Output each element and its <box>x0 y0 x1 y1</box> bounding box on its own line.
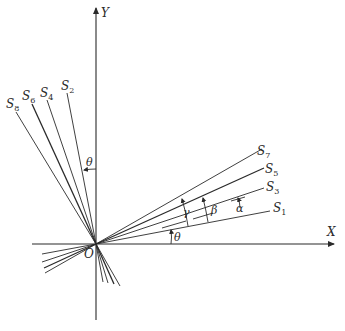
theta-x-arc <box>171 230 172 244</box>
label-s5: S5 <box>265 163 278 178</box>
label-s8: S8 <box>6 98 19 113</box>
line-s4 <box>47 100 96 244</box>
theta-y-arc <box>84 169 96 170</box>
gamma-label: γ <box>183 207 190 218</box>
label-s4: S4 <box>40 87 53 102</box>
y-axis-label: Y <box>101 7 109 19</box>
label-s1: S1 <box>273 202 286 217</box>
label-s6: S6 <box>22 90 35 105</box>
beta-label: β <box>211 205 217 216</box>
theta-y-label: θ <box>86 157 93 168</box>
reference-line-2 <box>193 213 213 219</box>
label-s7: S7 <box>257 145 270 160</box>
alpha-label: α <box>236 203 243 214</box>
line-fan-diagram <box>0 0 345 331</box>
reference-line-1 <box>162 221 186 228</box>
label-s2: S2 <box>61 80 74 95</box>
label-s3: S3 <box>266 181 279 196</box>
line-s6 <box>32 104 96 244</box>
line-s6-ext <box>96 244 114 284</box>
axes <box>32 8 334 320</box>
origin-label: O <box>84 248 94 260</box>
x-axis-label: X <box>327 226 336 238</box>
theta-x-label: θ <box>174 232 181 243</box>
line-s8 <box>16 112 96 244</box>
beta-arc <box>203 198 208 222</box>
